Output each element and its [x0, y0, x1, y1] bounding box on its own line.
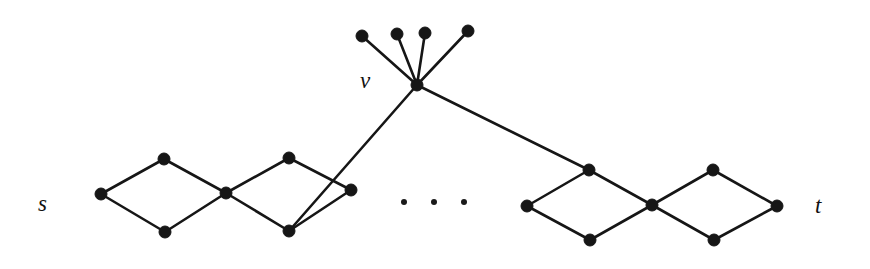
- graph-edge: [226, 158, 289, 193]
- graph-edge: [417, 85, 589, 170]
- graph-vertex-c2: [345, 184, 357, 196]
- graph-vertex-b4: [708, 234, 720, 246]
- graph-canvas: [0, 0, 870, 269]
- graph-vertex-c3: [521, 200, 533, 212]
- graph-vertex-b1: [159, 226, 171, 238]
- graph-edge: [101, 194, 165, 232]
- graph-vertex-t: [771, 200, 783, 212]
- graph-edge: [289, 85, 417, 231]
- ellipsis-dot: [401, 199, 407, 205]
- graph-edge: [165, 193, 226, 232]
- graph-edge: [226, 193, 289, 231]
- graph-edge: [590, 205, 652, 240]
- vertex-label-v: v: [360, 69, 370, 92]
- graph-edge: [589, 170, 652, 205]
- graph-vertex-c1: [220, 187, 232, 199]
- graph-vertex-s: [95, 188, 107, 200]
- graph-vertex-a4: [707, 164, 719, 176]
- graph-edge: [652, 205, 714, 240]
- graph-vertex-b3: [584, 234, 596, 246]
- graph-edge: [652, 170, 713, 205]
- graph-vertex-b2: [283, 225, 295, 237]
- graph-vertex-v: [411, 79, 423, 91]
- ellipsis-dot: [431, 199, 437, 205]
- graph-vertex-p2: [391, 28, 403, 40]
- graph-vertex-p1: [356, 30, 368, 42]
- graph-vertex-c4: [646, 199, 658, 211]
- graph-edge: [289, 158, 351, 190]
- graph-edge: [527, 170, 589, 206]
- graph-vertex-p4: [462, 25, 474, 37]
- graph-edge: [527, 206, 590, 240]
- graph-vertex-p3: [419, 27, 431, 39]
- graph-edge: [101, 159, 164, 194]
- edges-group: [101, 31, 777, 240]
- graph-edge: [713, 170, 777, 206]
- graph-vertex-a2: [283, 152, 295, 164]
- vertices-group: [95, 25, 783, 246]
- graph-edge: [164, 159, 226, 193]
- ellipsis-dot: [461, 199, 467, 205]
- vertex-label-s: s: [38, 192, 47, 215]
- graph-figure: s v t: [0, 0, 870, 269]
- graph-vertex-a3: [583, 164, 595, 176]
- graph-vertex-a1: [158, 153, 170, 165]
- vertex-label-t: t: [815, 194, 821, 217]
- graph-edge: [714, 206, 777, 240]
- ellipsis-group: [401, 199, 467, 205]
